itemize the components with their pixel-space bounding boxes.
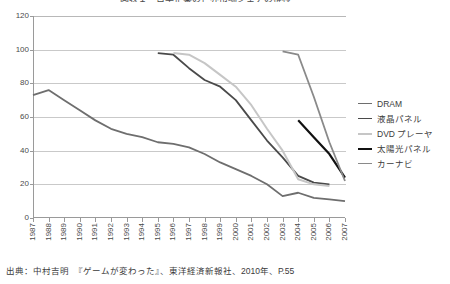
gridline bbox=[34, 50, 346, 51]
x-axis-tick-label: 1992 bbox=[107, 223, 115, 241]
x-axis-tick-label: 1998 bbox=[201, 223, 209, 241]
chart-figure: 図表１ 日本企業の世界市場シェアの推移 020406080100120 1987… bbox=[0, 0, 450, 284]
x-axis-tick bbox=[267, 218, 268, 222]
legend-swatch bbox=[358, 118, 372, 119]
x-axis-tick bbox=[127, 218, 128, 222]
x-axis-tick-label: 2004 bbox=[294, 223, 302, 241]
legend-label: カーナビ bbox=[377, 159, 413, 169]
legend-label: DVD プレーヤ bbox=[377, 129, 433, 139]
x-axis-tick bbox=[95, 218, 96, 222]
legend-label: 太陽光パネル bbox=[377, 144, 431, 154]
x-axis-tick bbox=[314, 218, 315, 222]
gridline bbox=[34, 151, 346, 152]
y-axis-tick bbox=[30, 83, 34, 84]
x-axis-tick bbox=[111, 218, 112, 222]
y-axis-tick bbox=[30, 184, 34, 185]
x-axis-tick-label: 2001 bbox=[247, 223, 255, 241]
x-axis-tick bbox=[345, 218, 346, 222]
legend-swatch bbox=[358, 133, 372, 135]
y-axis-tick-label: 80 bbox=[3, 79, 29, 87]
gridline bbox=[34, 184, 346, 185]
x-axis-tick bbox=[251, 218, 252, 222]
x-axis-tick bbox=[236, 218, 237, 222]
x-axis-tick bbox=[220, 218, 221, 222]
x-axis-tick bbox=[205, 218, 206, 222]
chart-legend: DRAM液晶パネルDVD プレーヤ太陽光パネルカーナビ bbox=[358, 96, 450, 171]
x-axis-tick bbox=[142, 218, 143, 222]
y-axis-tick-label: 60 bbox=[3, 113, 29, 121]
y-axis-tick-label: 0 bbox=[3, 214, 29, 222]
y-axis-tick-label: 120 bbox=[3, 12, 29, 20]
gridline bbox=[34, 16, 346, 17]
x-axis-tick-label: 2006 bbox=[325, 223, 333, 241]
gridline bbox=[34, 83, 346, 84]
y-axis-tick-label: 20 bbox=[3, 180, 29, 188]
x-axis-tick-label: 1994 bbox=[138, 223, 146, 241]
chart-title: 図表１ 日本企業の世界市場シェアの推移 bbox=[60, 0, 350, 2]
y-axis-tick bbox=[30, 16, 34, 17]
x-axis-tick bbox=[329, 218, 330, 222]
x-axis-tick-label: 2002 bbox=[263, 223, 271, 241]
x-axis-tick-label: 1989 bbox=[60, 223, 68, 241]
source-caption: 出典：中村吉明 『ゲームが変わった』、東洋経済新報社、2010年、P.55 bbox=[6, 266, 294, 276]
x-axis-tick-label: 1993 bbox=[123, 223, 131, 241]
legend-swatch bbox=[358, 163, 372, 164]
x-axis-tick-label: 2007 bbox=[341, 223, 349, 241]
y-axis-tick bbox=[30, 50, 34, 51]
legend-item[interactable]: DRAM bbox=[358, 96, 450, 111]
x-axis-tick bbox=[173, 218, 174, 222]
x-axis-tick bbox=[189, 218, 190, 222]
x-axis-tick bbox=[283, 218, 284, 222]
legend-item[interactable]: DVD プレーヤ bbox=[358, 126, 450, 141]
x-axis-tick bbox=[64, 218, 65, 222]
x-axis-tick bbox=[80, 218, 81, 222]
legend-label: 液晶パネル bbox=[377, 114, 422, 124]
legend-label: DRAM bbox=[377, 99, 402, 109]
y-axis-tick bbox=[30, 151, 34, 152]
legend-swatch bbox=[358, 148, 372, 150]
x-axis-tick bbox=[49, 218, 50, 222]
x-axis-tick-label: 1987 bbox=[29, 223, 37, 241]
x-axis-tick-label: 1988 bbox=[45, 223, 53, 241]
x-axis-tick-label: 2005 bbox=[310, 223, 318, 241]
y-axis-tick-label: 40 bbox=[3, 147, 29, 155]
legend-item[interactable]: カーナビ bbox=[358, 156, 450, 171]
x-axis-tick bbox=[158, 218, 159, 222]
x-axis-tick bbox=[33, 218, 34, 222]
x-axis-labels: 1987198819891990199119921993199419951996… bbox=[33, 223, 363, 263]
legend-swatch bbox=[358, 103, 372, 104]
x-axis-tick-label: 2000 bbox=[232, 223, 240, 241]
y-axis-tick-label: 100 bbox=[3, 46, 29, 54]
x-axis-tick-label: 1991 bbox=[91, 223, 99, 241]
x-axis-tick-label: 2003 bbox=[279, 223, 287, 241]
y-axis-tick bbox=[30, 117, 34, 118]
legend-item[interactable]: 太陽光パネル bbox=[358, 141, 450, 156]
y-axis-labels: 020406080100120 bbox=[0, 0, 29, 284]
x-axis-tick-label: 1997 bbox=[185, 223, 193, 241]
x-axis-tick bbox=[298, 218, 299, 222]
x-axis-tick-label: 1990 bbox=[76, 223, 84, 241]
plot-area bbox=[33, 16, 345, 218]
x-axis-tick-label: 1999 bbox=[216, 223, 224, 241]
x-axis-tick-label: 1996 bbox=[169, 223, 177, 241]
gridline bbox=[34, 117, 346, 118]
x-axis-tick-label: 1995 bbox=[154, 223, 162, 241]
legend-item[interactable]: 液晶パネル bbox=[358, 111, 450, 126]
